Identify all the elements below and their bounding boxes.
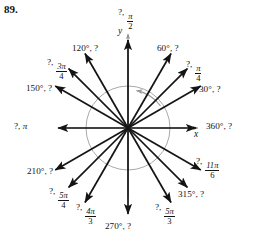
ray-210-label: 210°, ? <box>27 167 53 176</box>
ray-150-label-degrees: 150° <box>26 83 43 93</box>
ray-180-label-radians: π <box>23 121 28 131</box>
ray-120-label: 120°, ? <box>72 44 98 53</box>
ray-225-label-separator: , <box>53 186 58 196</box>
rays-group <box>55 40 201 214</box>
figure-page: 89. y x ?, π260°, ??, π430°, ?360°, ?120… <box>0 0 268 243</box>
ray-135-label-radians-fraction: 3π4 <box>56 62 67 81</box>
ray-270-label: 270°, ? <box>105 222 131 231</box>
ray-300-fraction-denominator: 3 <box>166 217 172 226</box>
ray-30-label: 30°, ? <box>199 85 221 94</box>
ray-330-label-separator: , <box>200 156 205 166</box>
ray-300-label-separator: , <box>159 202 164 212</box>
ray-330-label-radians-fraction: 11π6 <box>205 161 219 180</box>
ray-315-label: 315°, ? <box>178 190 204 199</box>
ray-135-fraction-denominator: 4 <box>58 72 64 81</box>
ray-30-label-radians: ? <box>216 84 220 94</box>
ray-270-label-radians: ? <box>127 221 131 231</box>
ray-315-label-degrees: 315° <box>178 189 195 199</box>
ray-240-label-separator: , <box>80 202 85 212</box>
ray-150-label-radians: ? <box>48 83 52 93</box>
ray-330-label: ?, 11π6 <box>196 157 220 179</box>
ray-90-label: ?, π2 <box>118 8 134 30</box>
ray-315-label-radians: ? <box>200 189 204 199</box>
ray-0-label: 360°, ? <box>206 122 232 131</box>
ray-0-label-degrees: 360° <box>206 121 223 131</box>
ray-45-label-separator: , <box>190 59 195 69</box>
ray-90-label-separator: , <box>122 7 127 17</box>
ray-300-label-radians-fraction: 5π3 <box>164 207 175 226</box>
ray-225-label-radians-fraction: 5π4 <box>58 191 69 210</box>
ray-225-label: ?, 5π4 <box>49 187 69 209</box>
ray-180-label: ?, π <box>14 122 27 131</box>
ray-150-label: 150°, ? <box>26 84 52 93</box>
ray-135-label: ?, 3π4 <box>47 58 67 80</box>
ray-60-label-degrees: 60° <box>157 43 170 53</box>
ray-120-label-radians: ? <box>94 43 98 53</box>
ray-300-label: ?, 5π3 <box>155 203 175 225</box>
ray-45-fraction-denominator: 4 <box>195 74 201 83</box>
ray-240-fraction-denominator: 3 <box>87 217 93 226</box>
ray-0-label-radians: ? <box>228 121 232 131</box>
ray-30-label-degrees: 30° <box>199 84 212 94</box>
ray-60-label-radians: ? <box>174 43 178 53</box>
ray-225-fraction-denominator: 4 <box>60 201 66 210</box>
ray-45-label-radians-fraction: π4 <box>195 64 201 83</box>
ray-135-label-separator: , <box>51 57 56 67</box>
ray-210-label-radians: ? <box>49 166 53 176</box>
ray-120-label-degrees: 120° <box>72 43 89 53</box>
ray-270-label-degrees: 270° <box>105 221 122 231</box>
x-axis-label: x <box>194 130 198 140</box>
ray-240-label: ?, 4π3 <box>76 203 96 225</box>
ray-90-fraction-denominator: 2 <box>127 22 133 31</box>
ray-45-label: ?, π4 <box>186 60 202 82</box>
ray-210-label-degrees: 210° <box>27 166 44 176</box>
ray-90-label-radians-fraction: π2 <box>127 12 133 31</box>
ray-330-fraction-denominator: 6 <box>209 171 215 180</box>
ray-60-label: 60°, ? <box>157 44 179 53</box>
ray-240-label-radians-fraction: 4π3 <box>85 207 96 226</box>
